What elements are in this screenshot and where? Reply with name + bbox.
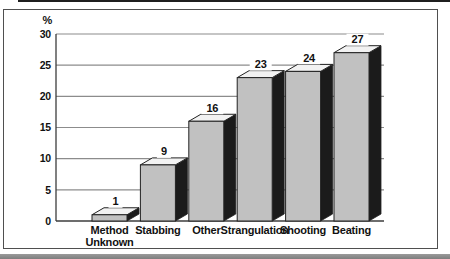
- x-category-label-stabbing-line1: Stabbing: [135, 224, 180, 236]
- bar-value-label-strangulation: 23: [255, 58, 267, 70]
- bar-other: [189, 121, 224, 221]
- page-bottom-edge: [0, 254, 450, 259]
- bar-strangulation: [237, 78, 272, 221]
- y-tick-label-25: 25: [40, 59, 52, 71]
- y-tick-label-5: 5: [45, 184, 51, 196]
- x-category-label-beating-line1: Beating: [332, 224, 371, 236]
- x-category-label-shooting-line1: Shooting: [280, 224, 326, 236]
- bar-stabbing: [140, 165, 175, 221]
- y-tick-label-30: 30: [40, 28, 52, 40]
- x-category-label-method-unknown-line1: Method: [91, 224, 129, 236]
- bar-side-strangulation: [272, 71, 284, 221]
- x-category-label-other-line1: Other: [192, 224, 221, 236]
- bar-beating: [334, 53, 369, 221]
- bar-chart: 0510152025301916232427MethodUnknownStabb…: [0, 0, 450, 259]
- bar-value-label-stabbing: 9: [161, 145, 167, 157]
- bar-side-shooting: [321, 64, 333, 221]
- bar-value-label-beating: 27: [352, 33, 364, 45]
- x-category-label-strangulation-line1: Strangulation: [221, 224, 290, 236]
- bar-value-label-other: 16: [206, 102, 218, 114]
- bar-method-unknown: [92, 215, 127, 221]
- bar-side-beating: [369, 46, 381, 221]
- y-tick-label-15: 15: [40, 121, 52, 133]
- y-tick-label-10: 10: [40, 152, 52, 164]
- bar-side-other: [224, 114, 236, 221]
- bar-side-stabbing: [175, 158, 187, 221]
- bar-shooting: [286, 71, 321, 221]
- bar-value-label-method-unknown: 1: [113, 195, 119, 207]
- bar-value-label-shooting: 24: [303, 52, 316, 64]
- x-category-label-method-unknown-line2: Unknown: [85, 236, 134, 248]
- y-tick-label-0: 0: [45, 215, 51, 227]
- y-tick-label-20: 20: [40, 90, 52, 102]
